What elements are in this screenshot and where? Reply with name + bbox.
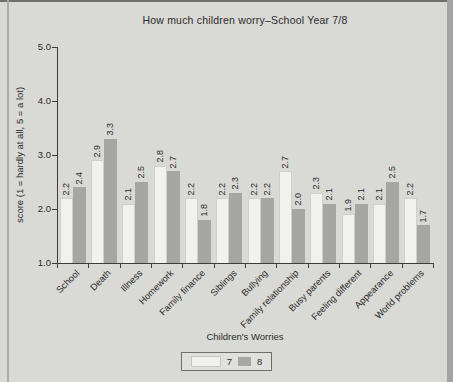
bar-year8-illness [135, 182, 148, 263]
bar-value-label: 2.3 [311, 177, 322, 190]
y-tick-label: 4.0 [18, 95, 51, 106]
legend-label-year8: 8 [257, 356, 262, 367]
x-tick-mark [214, 264, 215, 268]
x-tick-mark [120, 264, 121, 268]
x-tick-mark [182, 264, 183, 268]
bar-year8-appearance [386, 182, 399, 263]
chart-figure: How much children worry–School Year 7/8 … [0, 0, 453, 382]
page-edge-right [447, 0, 453, 382]
bar-value-label: 2.7 [168, 156, 179, 169]
bar-year8-homework [167, 171, 180, 263]
legend-box: 7 8 [181, 352, 273, 371]
bar-value-label: 2.2 [262, 183, 273, 196]
bar-year7-world-problems [404, 198, 417, 263]
bar-year8-feeling-different [355, 204, 368, 263]
legend: 7 8 [0, 352, 453, 371]
bar-value-label: 2.1 [324, 188, 335, 201]
bar-year8-world-problems [417, 225, 430, 263]
bar-value-label: 2.4 [74, 172, 85, 185]
chart-title: How much children worry–School Year 7/8 [57, 14, 433, 26]
bar-value-label: 2.9 [92, 145, 103, 158]
bar-year8-school [73, 187, 86, 263]
bar-value-label: 2.1 [123, 188, 134, 201]
bar-value-label: 2.5 [387, 166, 398, 179]
y-tick-label: 5.0 [18, 41, 51, 52]
x-tick-mark [88, 264, 89, 268]
x-tick-mark [402, 264, 403, 268]
bar-value-label: 3.3 [105, 123, 116, 136]
bar-year7-illness [122, 204, 135, 263]
x-tick-mark [151, 264, 152, 268]
x-tick-mark [339, 264, 340, 268]
y-tick-mark [52, 155, 57, 156]
bar-year8-family-relationship [292, 209, 305, 263]
bar-year7-school [60, 198, 73, 263]
x-tick-mark [276, 264, 277, 268]
bar-year8-busy-parents [323, 204, 336, 263]
x-tick-mark [370, 264, 371, 268]
y-tick-mark [52, 209, 57, 210]
bar-year7-feeling-different [342, 214, 355, 263]
bar-year7-busy-parents [310, 193, 323, 263]
bar-value-label: 2.2 [405, 183, 416, 196]
bar-value-label: 2.2 [61, 183, 72, 196]
y-tick-label: 1.0 [18, 257, 51, 268]
page-edge-top [0, 0, 453, 2]
bar-value-label: 2.5 [136, 166, 147, 179]
bar-value-label: 2.2 [186, 183, 197, 196]
y-axis-line [57, 47, 58, 264]
bar-value-label: 2.2 [217, 183, 228, 196]
bar-year7-death [91, 160, 104, 263]
bar-year8-death [104, 139, 117, 263]
category-label-family-relationship: Family relationship [239, 268, 301, 330]
x-tick-mark [308, 264, 309, 268]
y-tick-mark [52, 101, 57, 102]
category-label-siblings: Siblings [208, 268, 238, 298]
bar-value-label: 2.7 [280, 156, 291, 169]
bar-value-label: 1.8 [199, 204, 210, 217]
y-tick-label: 2.0 [18, 203, 51, 214]
bar-value-label: 2.1 [356, 188, 367, 201]
bar-year7-bullying [248, 198, 261, 263]
bar-year8-siblings [229, 193, 242, 263]
bar-value-label: 2.3 [230, 177, 241, 190]
x-tick-mark [57, 264, 58, 268]
bar-year7-family-relationship [279, 171, 292, 263]
x-tick-mark [433, 264, 434, 268]
bar-value-label: 1.9 [343, 199, 354, 212]
category-label-death: Death [88, 268, 113, 293]
legend-label-year7: 7 [227, 356, 232, 367]
legend-swatch-year7 [191, 356, 221, 367]
bar-value-label: 2.0 [293, 193, 304, 206]
bar-year8-family-finance [198, 220, 211, 263]
x-tick-mark [245, 264, 246, 268]
bar-year7-appearance [373, 204, 386, 263]
bar-year7-siblings [216, 198, 229, 263]
bar-year8-bullying [261, 198, 274, 263]
y-tick-label: 3.0 [18, 149, 51, 160]
legend-swatch-year8 [238, 357, 251, 366]
bar-value-label: 2.1 [374, 188, 385, 201]
bar-value-label: 1.7 [418, 210, 429, 223]
category-label-school: School [55, 268, 82, 295]
x-axis-title: Children's Worries [57, 331, 433, 342]
y-tick-mark [52, 47, 57, 48]
bar-year7-family-finance [185, 198, 198, 263]
category-label-bullying: Bullying [240, 268, 270, 298]
bar-year7-homework [154, 166, 167, 263]
bar-value-label: 2.8 [155, 150, 166, 163]
page-edge-left [7, 0, 9, 382]
category-label-illness: Illness [119, 268, 145, 294]
bar-value-label: 2.2 [249, 183, 260, 196]
